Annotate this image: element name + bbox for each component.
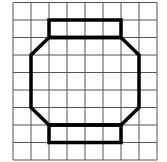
grid-figure [0, 0, 167, 162]
grid-lines [13, 3, 157, 161]
